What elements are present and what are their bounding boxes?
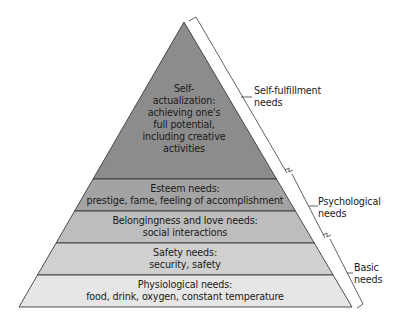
pyramid-diagram [0,0,399,321]
label-safety: Safety needs: security, safety [115,247,255,271]
label-physiological: Physiological needs: food, drink, oxygen… [65,279,305,303]
label-belongingness: Belongingness and love needs: social int… [85,215,285,239]
label-esteem: Esteem needs: prestige, fame, feeling of… [75,183,295,207]
group-label-psychological: Psychological needs [318,196,381,220]
bracket-top-cap [189,17,196,21]
bracket-bottom-cap [357,304,363,308]
group-label-self-fulfillment: Self-fulfillment needs [254,85,321,109]
label-self-actualization: Self- actualization: achieving one's ful… [134,83,234,155]
group-label-basic: Basic needs [354,262,382,286]
